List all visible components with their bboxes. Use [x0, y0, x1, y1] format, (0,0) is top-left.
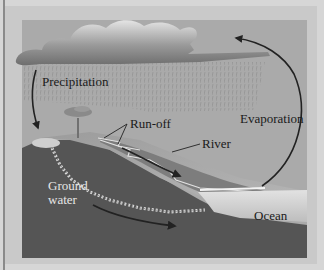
ocean-label: Ocean — [254, 209, 287, 223]
lake — [32, 138, 60, 148]
groundwater-label-line1: Ground — [48, 179, 88, 193]
precipitation-label: Precipitation — [42, 75, 108, 89]
water-cycle-diagram — [0, 0, 324, 270]
runoff-label: Run-off — [130, 117, 171, 131]
evaporation-label: Evaporation — [240, 112, 304, 126]
groundwater-label-line2: water — [48, 193, 77, 207]
river-label: River — [202, 137, 231, 151]
